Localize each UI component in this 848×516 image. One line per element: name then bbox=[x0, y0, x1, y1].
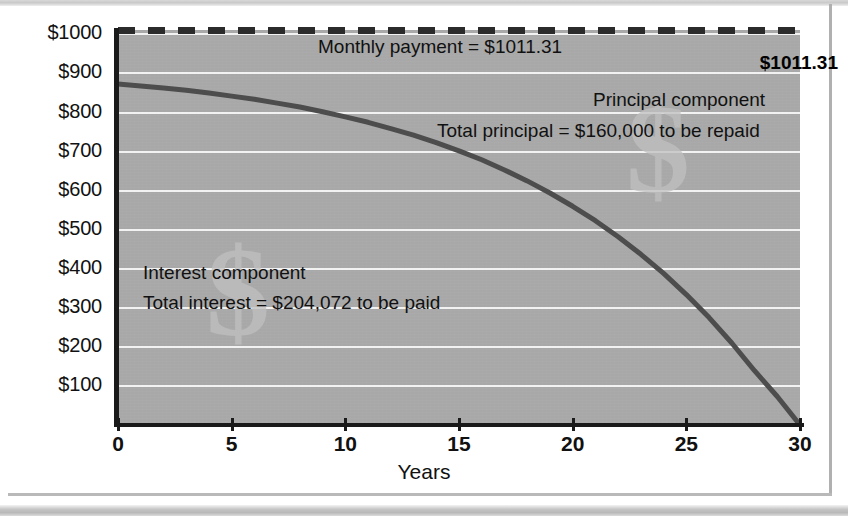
monthly-payment-dashed-line bbox=[118, 27, 800, 34]
annotation-total-principal: Total principal = $160,000 to be repaid bbox=[437, 120, 760, 142]
x-axis-tick-label: 30 bbox=[770, 432, 830, 456]
x-axis-tick-label: 25 bbox=[656, 432, 716, 456]
y-axis-tick-label: $200 bbox=[58, 334, 112, 357]
page-band-top bbox=[0, 0, 848, 6]
annotation-monthly-payment: Monthly payment = $1011.31 bbox=[318, 36, 562, 58]
x-axis-tick-label: 0 bbox=[88, 432, 148, 456]
x-axis-tick bbox=[231, 418, 234, 431]
y-axis-tick-label: $900 bbox=[58, 60, 112, 83]
figure-frame-right bbox=[829, 4, 832, 496]
x-axis-tick bbox=[572, 418, 575, 431]
y-axis-top-label: $1011.31 bbox=[760, 52, 838, 74]
y-axis-tick-label: $500 bbox=[58, 217, 112, 240]
x-axis-tick-label: 10 bbox=[315, 432, 375, 456]
annotation-principal-component: Principal component bbox=[593, 89, 765, 111]
x-axis-tick bbox=[458, 418, 461, 431]
annotation-interest-component: Interest component bbox=[143, 262, 306, 284]
y-axis-line bbox=[114, 28, 119, 427]
x-axis-tick bbox=[799, 418, 802, 431]
page-band-bottom bbox=[0, 505, 848, 516]
annotation-total-interest: Total interest = $204,072 to be paid bbox=[143, 292, 440, 314]
y-axis-tick-label: $1000 bbox=[47, 21, 112, 44]
x-axis-title: Years bbox=[0, 460, 848, 484]
y-axis-tick-label: $400 bbox=[58, 256, 112, 279]
x-axis-tick-label: 20 bbox=[543, 432, 603, 456]
x-axis-tick-label: 5 bbox=[202, 432, 262, 456]
y-axis-tick-label: $300 bbox=[58, 295, 112, 318]
x-axis-tick bbox=[117, 418, 120, 431]
figure-frame-bottom bbox=[8, 493, 832, 496]
x-axis-tick bbox=[685, 418, 688, 431]
y-axis-tick-label: $100 bbox=[58, 373, 112, 396]
x-axis-tick-label: 15 bbox=[429, 432, 489, 456]
x-axis-tick bbox=[344, 418, 347, 431]
y-axis-tick-label: $600 bbox=[58, 178, 112, 201]
y-axis-tick-label: $700 bbox=[58, 139, 112, 162]
y-axis-tick-label: $800 bbox=[58, 100, 112, 123]
